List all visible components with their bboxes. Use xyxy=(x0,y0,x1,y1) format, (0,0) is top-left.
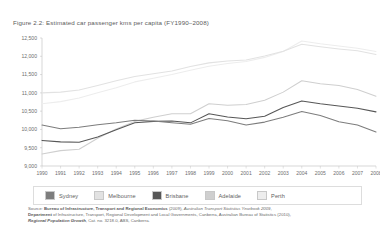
x-tick-label: 2005 xyxy=(315,170,326,176)
legend-label-sydney: Sydney xyxy=(59,193,78,199)
x-tick-label: 1997 xyxy=(166,170,177,176)
legend-label-perth: Perth xyxy=(271,193,285,199)
y-tick-label: 12,500 xyxy=(21,35,37,41)
y-tick-label: 10,000 xyxy=(21,126,37,132)
x-tick-label: 2004 xyxy=(296,170,307,176)
x-tick-label: 2000 xyxy=(222,170,233,176)
x-tick-label: 2001 xyxy=(241,170,252,176)
chart-plot-area: 9,0009,50010,00010,50011,00011,50012,000… xyxy=(12,32,380,184)
series-line-perth xyxy=(42,41,376,104)
y-tick-label: 9,000 xyxy=(24,163,37,169)
data-series-group xyxy=(42,41,376,154)
source-department-rest: of Infrastructure, Transport, Regional D… xyxy=(52,212,291,217)
series-line-melbourne xyxy=(42,44,376,93)
x-tick-label: 1999 xyxy=(203,170,214,176)
source-dataset: Regional Population Growth xyxy=(28,218,86,223)
legend-swatch-sydney xyxy=(45,191,55,200)
y-tick-label: 10,500 xyxy=(21,108,37,114)
x-tick-label: 2007 xyxy=(352,170,363,176)
x-tick-label: 2003 xyxy=(278,170,289,176)
x-tick-label: 2002 xyxy=(259,170,270,176)
figure-container: Figure 2.2: Estimated car passenger kms … xyxy=(0,0,392,248)
legend-swatch-melbourne xyxy=(94,191,104,200)
y-tick-label: 9,500 xyxy=(24,145,37,151)
legend-label-adelaide: Adelaide xyxy=(219,193,242,199)
x-tick-label: 1992 xyxy=(74,170,85,176)
line-chart-svg: 9,0009,50010,00010,50011,00011,50012,000… xyxy=(12,32,380,184)
legend-item-adelaide[interactable]: Adelaide xyxy=(205,191,242,200)
source-note: Source: Bureau of Infrastructure, Transp… xyxy=(28,206,378,225)
source-prefix: Source: xyxy=(28,206,44,211)
x-axis: 1990199119921993199419951996199719981999… xyxy=(36,166,380,176)
source-department: Department xyxy=(28,212,52,217)
y-tick-label: 12,000 xyxy=(21,53,37,59)
x-tick-label: 1998 xyxy=(185,170,196,176)
y-axis: 9,0009,50010,00010,50011,00011,50012,000… xyxy=(21,35,42,169)
source-dataset-rest: , Cat. no. 3218.0, ABS, Canberra. xyxy=(86,218,150,223)
legend-label-melbourne: Melbourne xyxy=(108,193,135,199)
legend-item-brisbane[interactable]: Brisbane xyxy=(152,191,189,200)
source-publication: Australian Transport Statistics Yearbook… xyxy=(184,206,271,211)
x-tick-label: 1994 xyxy=(111,170,122,176)
legend-swatch-brisbane xyxy=(152,191,162,200)
x-tick-label: 2006 xyxy=(333,170,344,176)
chart-legend: Sydney Melbourne Brisbane Adelaide Perth xyxy=(33,186,362,205)
series-line-brisbane xyxy=(42,101,376,142)
legend-item-melbourne[interactable]: Melbourne xyxy=(94,191,135,200)
x-tick-label: 1990 xyxy=(36,170,47,176)
x-tick-label: 1995 xyxy=(129,170,140,176)
source-line-3: Regional Population Growth, Cat. no. 321… xyxy=(28,218,378,224)
legend-label-brisbane: Brisbane xyxy=(166,193,189,199)
x-tick-label: 1996 xyxy=(148,170,159,176)
source-line1-suffix: , xyxy=(271,206,272,211)
x-tick-label: 1991 xyxy=(55,170,66,176)
legend-swatch-adelaide xyxy=(205,191,215,200)
series-line-sydney xyxy=(42,112,376,132)
y-tick-label: 11,000 xyxy=(22,90,37,96)
source-organisation: Bureau of Infrastructure, Transport and … xyxy=(44,206,168,211)
figure-title: Figure 2.2: Estimated car passenger kms … xyxy=(13,19,209,26)
source-year: (2009), xyxy=(168,206,184,211)
x-tick-label: 1993 xyxy=(92,170,103,176)
legend-swatch-perth xyxy=(257,191,267,200)
legend-item-sydney[interactable]: Sydney xyxy=(45,191,78,200)
x-tick-label: 2008 xyxy=(370,170,380,176)
legend-item-perth[interactable]: Perth xyxy=(257,191,285,200)
y-tick-label: 11,500 xyxy=(22,71,37,77)
